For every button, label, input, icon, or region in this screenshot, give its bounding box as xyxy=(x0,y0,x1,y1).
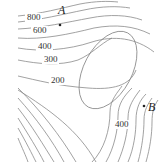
contour-label-600: 600 xyxy=(33,25,47,35)
point-a-label: A xyxy=(57,3,66,17)
point-a-marker xyxy=(59,24,62,27)
contour-label-400-bottom: 400 xyxy=(115,119,129,129)
contours-lower-left xyxy=(18,88,96,162)
contour-ellipse xyxy=(67,22,149,119)
point-b-label: B xyxy=(148,100,156,114)
contour-label-200: 200 xyxy=(51,75,65,85)
point-b-marker xyxy=(143,105,146,108)
contour-label-400-top: 400 xyxy=(38,41,52,51)
contour-label-800: 800 xyxy=(27,12,41,22)
contour-label-300: 300 xyxy=(44,54,58,64)
contour-map: 800 600 400 300 200 400 A B xyxy=(0,0,165,165)
contour-labels: 800 600 400 300 200 400 xyxy=(25,12,130,129)
